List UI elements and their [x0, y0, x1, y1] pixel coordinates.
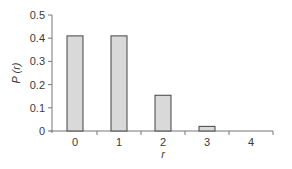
x-tick-label: 3	[204, 136, 210, 148]
bar-r-1	[111, 36, 127, 131]
x-tick-label: 4	[248, 136, 254, 148]
x-tick-label: 0	[72, 136, 78, 148]
y-tick-label: 0.1	[30, 102, 45, 114]
y-tick-label: 0	[39, 125, 45, 137]
y-axis: 00.10.20.30.40.5	[30, 9, 52, 137]
bar-chart: 00.10.20.30.40.5 01234 P (r) r	[0, 0, 292, 169]
y-tick-label: 0.4	[30, 32, 45, 44]
x-tick-label: 1	[116, 136, 122, 148]
bar-r-3	[199, 126, 215, 131]
bar-r-2	[155, 95, 171, 131]
x-axis: 01234	[50, 131, 273, 148]
x-axis-label: r	[161, 148, 166, 160]
x-tick-label: 2	[160, 136, 166, 148]
y-axis-label: P (r)	[10, 62, 22, 83]
y-tick-label: 0.5	[30, 9, 45, 21]
bars	[67, 36, 215, 131]
y-tick-label: 0.3	[30, 55, 45, 67]
bar-r-0	[67, 36, 83, 131]
y-tick-label: 0.2	[30, 79, 45, 91]
